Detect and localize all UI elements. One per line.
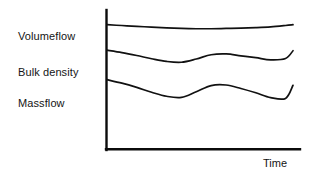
series-label-bulk-density: Bulk density bbox=[18, 67, 79, 78]
series-label-volumeflow: Volumeflow bbox=[18, 31, 75, 42]
curve-volumeflow bbox=[107, 25, 293, 29]
line-chart-canvas bbox=[0, 0, 316, 178]
x-axis-label-time: Time bbox=[263, 158, 287, 169]
series-label-massflow: Massflow bbox=[18, 98, 65, 109]
curve-bulk-density bbox=[107, 50, 293, 62]
chart-figure: Volumeflow Bulk density Massflow Time bbox=[0, 0, 316, 178]
curve-massflow bbox=[107, 80, 293, 100]
